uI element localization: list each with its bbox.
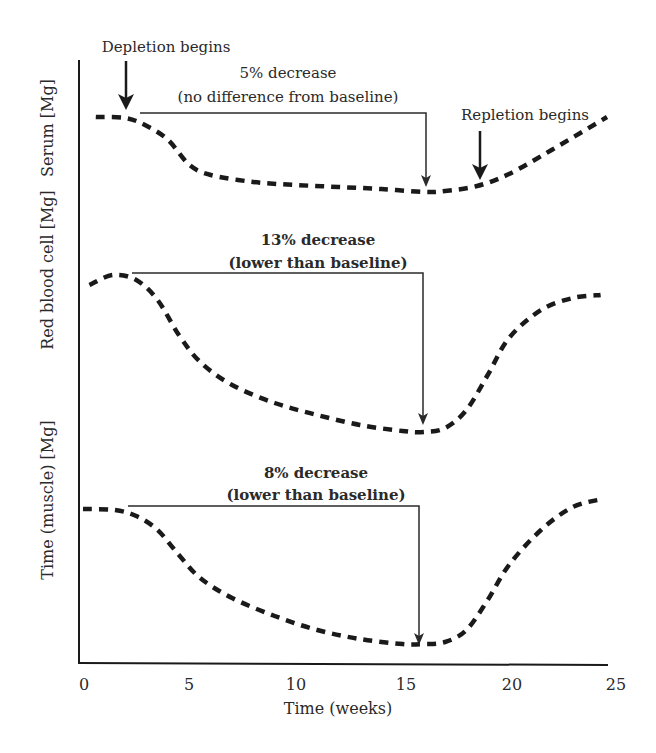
muscle-annotation-line2: (lower than baseline) [226,486,405,504]
rbc-bracket [132,273,423,420]
serum-annotation-line2: (no difference from baseline) [178,88,399,106]
x-tick-10: 10 [286,675,306,694]
x-tick-0: 0 [79,675,89,694]
serum-bracket [140,113,426,182]
repletion-label: Repletion begins [461,106,589,124]
rbc-annotation-line2: (lower than baseline) [228,254,407,272]
muscle-curve [83,499,603,644]
depletion-label: Depletion begins [102,38,231,56]
serum-curve [96,117,607,192]
muscle-annotation-line1: 8% decrease [264,464,368,482]
x-axis [78,663,608,665]
y-label-rbc: Red blood cell [Mg] [38,190,57,350]
x-tick-25: 25 [606,675,626,694]
muscle-bracket [128,506,419,640]
y-label-muscle: Time (muscle) [Mg] [38,420,57,579]
rbc-curve [89,275,600,432]
y-label-serum: Serum [Mg] [38,79,57,177]
rbc-annotation-line1: 13% decrease [261,231,376,249]
x-tick-15: 15 [396,675,416,694]
magnesium-depletion-chart: 0 5 10 15 20 25 Time (weeks) Serum [Mg] … [0,0,656,753]
x-tick-20: 20 [502,675,522,694]
x-tick-5: 5 [184,675,194,694]
x-axis-label: Time (weeks) [284,699,393,718]
serum-annotation-line1: 5% decrease [239,64,336,82]
